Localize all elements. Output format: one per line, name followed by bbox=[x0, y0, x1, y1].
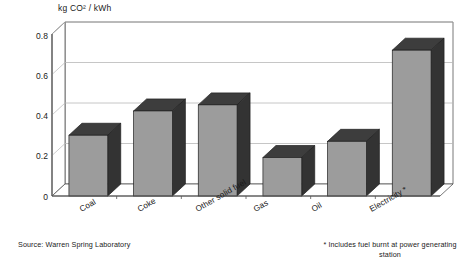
co2-emissions-bar-chart: kg CO² / kWh 0.8 0.6 0.4 0.2 0 Coal Coke… bbox=[0, 0, 476, 274]
footnote-note: * Includes fuel burnt at power generatin… bbox=[312, 240, 468, 259]
bar-1 bbox=[69, 123, 121, 196]
bar-6 bbox=[392, 38, 444, 196]
plot-area bbox=[0, 0, 476, 274]
bar-5 bbox=[328, 129, 380, 196]
bar-2 bbox=[134, 99, 186, 196]
bar-4 bbox=[263, 146, 315, 196]
footnote-line-2: station bbox=[379, 250, 401, 259]
source-note: Source: Warren Spring Laboratory bbox=[18, 240, 130, 249]
footnote-line-1: * Includes fuel burnt at power generatin… bbox=[323, 240, 456, 249]
